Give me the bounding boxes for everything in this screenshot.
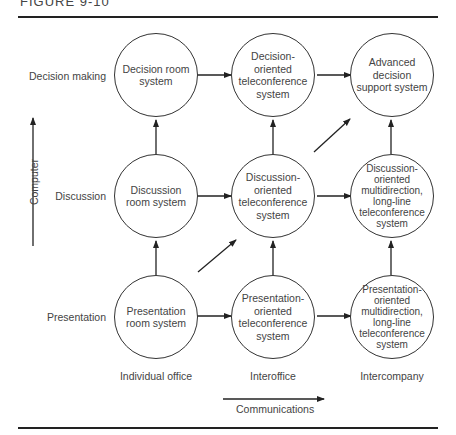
node-text: Presentation-oriented multidirection, lo…: [351, 284, 433, 350]
node-text: Presentation-oriented teleconference sys…: [232, 292, 314, 342]
col-label-interoffice: Interoffice: [218, 370, 328, 382]
node-discussion-oriented-teleconference: Discussion-oriented teleconference syste…: [231, 154, 315, 238]
axis-label-communications: Communications: [236, 403, 314, 415]
node-presentation-oriented-teleconference: Presentation-oriented teleconference sys…: [231, 275, 315, 359]
node-presentation-multidirection-teleconference: Presentation-oriented multidirection, lo…: [350, 275, 434, 359]
node-text: Decision-oriented teleconference system: [232, 50, 314, 100]
node-presentation-room-system: Presentation room system: [114, 275, 198, 359]
row-label-decision-making: Decision making: [6, 70, 106, 82]
col-label-individual-office: Individual office: [101, 370, 211, 382]
node-decision-oriented-teleconference: Decision-oriented teleconference system: [231, 33, 315, 117]
row-label-discussion: Discussion: [6, 190, 106, 202]
node-text: Discussion-oriented teleconference syste…: [232, 171, 314, 221]
node-text: Decision room system: [115, 63, 197, 88]
node-text: Discussion room system: [115, 184, 197, 209]
col-label-intercompany: Intercompany: [337, 370, 447, 382]
node-discussion-room-system: Discussion room system: [114, 154, 198, 238]
node-text: Advanced decision support system: [351, 56, 433, 94]
node-text: Discussion-oriented multidirection, long…: [351, 163, 433, 229]
row-label-presentation: Presentation: [6, 311, 106, 323]
node-advanced-decision-support: Advanced decision support system: [350, 33, 434, 117]
node-text: Presentation room system: [115, 305, 197, 330]
axis-label-computer: Computer: [28, 152, 40, 212]
node-decision-room-system: Decision room system: [114, 33, 198, 117]
node-discussion-multidirection-teleconference: Discussion-oriented multidirection, long…: [350, 154, 434, 238]
